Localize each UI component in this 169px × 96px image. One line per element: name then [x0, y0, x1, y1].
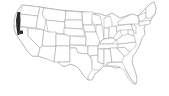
state-kansas — [70, 36, 86, 45]
state-mississippi — [98, 49, 104, 64]
state-indiana — [104, 28, 109, 39]
us-range-map — [0, 0, 169, 96]
state-colorado — [56, 34, 70, 46]
state-south-dakota — [65, 20, 83, 29]
state-iowa — [83, 25, 96, 32]
state-utah — [42, 30, 56, 46]
state-new-mexico — [54, 46, 70, 62]
state-vermont-new-hampshire — [138, 12, 146, 22]
range-central-california-patch — [20, 31, 24, 35]
state-michigan — [104, 16, 112, 28]
state-new-york — [118, 14, 139, 25]
state-arizona — [38, 46, 56, 62]
state-arkansas — [88, 46, 98, 56]
state-florida — [107, 62, 136, 84]
state-nebraska — [64, 28, 85, 36]
state-wisconsin — [92, 14, 102, 25]
state-borders — [14, 2, 156, 84]
state-north-dakota — [65, 11, 82, 20]
state-maine — [146, 2, 156, 18]
